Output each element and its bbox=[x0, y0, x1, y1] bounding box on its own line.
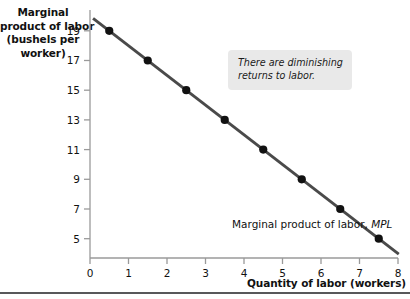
y-tick-label: 17 bbox=[58, 54, 80, 66]
callout-text: There are diminishing returns to labor. bbox=[238, 57, 343, 81]
series-label-symbol: MPL bbox=[371, 218, 392, 230]
y-tick-label: 11 bbox=[58, 144, 80, 156]
chart-figure: Marginal product of labor (bushels per w… bbox=[0, 0, 410, 299]
x-tick-label: 0 bbox=[80, 267, 100, 279]
bottom-divider bbox=[0, 292, 410, 294]
series-label-prefix: Marginal product of labor, bbox=[232, 218, 371, 230]
x-axis-title: Quantity of labor (workers) bbox=[180, 277, 406, 289]
x-tick-label: 2 bbox=[157, 267, 177, 279]
y-tick-label: 13 bbox=[58, 114, 80, 126]
series-label-mpl: Marginal product of labor, MPL bbox=[232, 218, 392, 230]
x-tick-label: 1 bbox=[119, 267, 139, 279]
diminishing-returns-callout: There are diminishing returns to labor. bbox=[228, 50, 352, 90]
y-tick-label: 7 bbox=[58, 203, 80, 215]
y-tick-label: 19 bbox=[58, 25, 80, 37]
y-tick-label: 5 bbox=[58, 233, 80, 245]
y-tick-label: 15 bbox=[58, 84, 80, 96]
y-tick-label: 9 bbox=[58, 173, 80, 185]
